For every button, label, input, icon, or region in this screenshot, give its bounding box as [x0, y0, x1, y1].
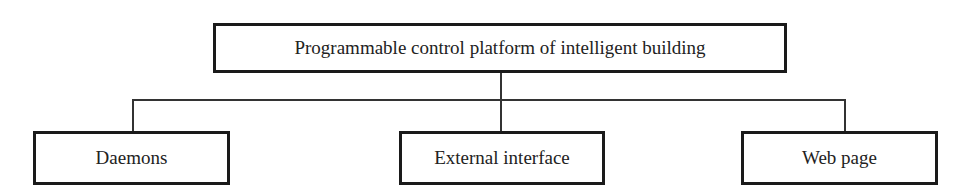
- child-node-web-page: Web page: [741, 131, 938, 185]
- child-connector-web-page: [844, 99, 846, 132]
- root-node-label: Programmable control platform of intelli…: [294, 37, 705, 59]
- root-connector: [500, 73, 502, 100]
- child-node-label: External interface: [434, 147, 570, 169]
- child-connector-daemons: [132, 99, 134, 132]
- child-node-label: Web page: [802, 147, 877, 169]
- child-connector-external-interface: [500, 99, 502, 132]
- branch-connector: [132, 99, 846, 101]
- child-node-label: Daemons: [96, 147, 168, 169]
- child-node-daemons: Daemons: [33, 131, 230, 185]
- root-node: Programmable control platform of intelli…: [213, 23, 787, 73]
- child-node-external-interface: External interface: [399, 131, 605, 185]
